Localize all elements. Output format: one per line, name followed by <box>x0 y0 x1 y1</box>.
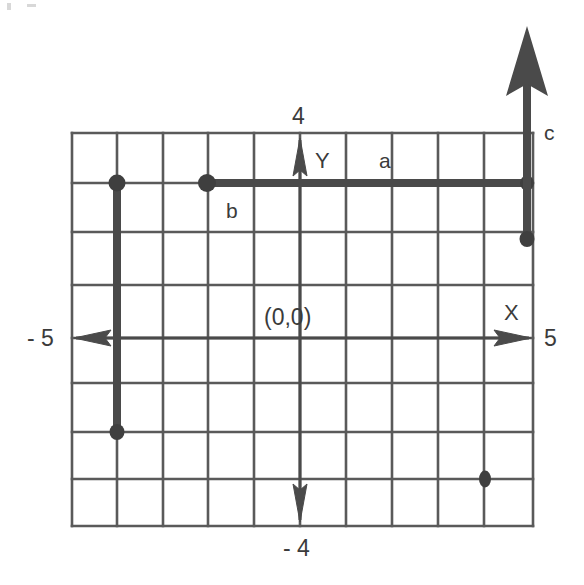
x-axis-left-arrowhead <box>74 330 111 346</box>
vector-grid-figure: 4 - 4 5 - 5 Y X (0,0) a b c <box>0 0 584 585</box>
y-axis <box>293 138 307 522</box>
vector-a-label: a <box>379 150 391 171</box>
vector-b-label: b <box>226 200 238 221</box>
y-axis-name-label: Y <box>315 150 330 172</box>
y-axis-min-label: - 4 <box>283 537 310 560</box>
x-axis-max-label: 5 <box>544 327 557 350</box>
coordinate-plot <box>0 0 584 585</box>
vector-c-label: c <box>544 122 555 143</box>
plot-point <box>479 471 491 488</box>
plot-points <box>479 471 491 488</box>
vector-b-segment <box>109 175 126 441</box>
y-axis-max-label: 4 <box>292 105 305 128</box>
y-axis-up-arrowhead <box>293 138 307 176</box>
scan-artifact-speck <box>27 4 36 7</box>
vector-c-arrow <box>506 26 548 247</box>
x-axis-min-label: - 5 <box>27 327 54 350</box>
y-axis-down-arrowhead <box>293 484 307 522</box>
scan-artifact-speck <box>7 3 11 10</box>
vector-a-endpoint-dot <box>198 174 216 192</box>
x-axis-name-label: X <box>504 302 519 324</box>
x-axis <box>74 330 531 346</box>
vector-b-endpoint-dot <box>110 424 125 440</box>
origin-label: (0,0) <box>264 306 311 329</box>
x-axis-right-arrowhead <box>494 330 531 346</box>
vector-c-tail-dot <box>520 231 535 247</box>
vector-b-endpoint-dot <box>109 175 126 192</box>
